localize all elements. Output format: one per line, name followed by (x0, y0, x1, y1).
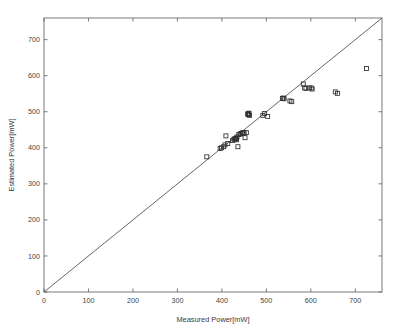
x-tick-label: 100 (82, 296, 94, 305)
y-axis-title: Estimated Power[mW] (7, 118, 16, 191)
identity-line (44, 18, 382, 292)
x-axis-title: Measured Power[mW] (176, 315, 249, 324)
x-tick-label: 0 (42, 296, 46, 305)
y-tick-label: 300 (28, 179, 40, 188)
data-point-marker (205, 155, 209, 159)
x-tick-label: 400 (216, 296, 228, 305)
y-axis-ticks (44, 40, 382, 292)
identity-reference-line (44, 18, 382, 292)
y-axis-tick-labels: 0100200300400500600700 (28, 35, 40, 296)
y-tick-label: 0 (36, 288, 40, 297)
data-point-marker (364, 66, 368, 70)
x-axis-ticks (44, 18, 355, 292)
y-tick-label: 400 (28, 143, 40, 152)
x-tick-label: 700 (349, 296, 361, 305)
data-point-series (205, 66, 369, 158)
x-axis-tick-labels: 0100200300400500600700 (42, 296, 361, 305)
x-tick-label: 200 (127, 296, 139, 305)
y-tick-label: 700 (28, 35, 40, 44)
data-point-marker (243, 136, 247, 140)
y-tick-label: 500 (28, 107, 40, 116)
data-point-marker (224, 134, 228, 138)
data-point-marker (236, 145, 240, 149)
y-tick-label: 100 (28, 252, 40, 261)
x-tick-label: 300 (171, 296, 183, 305)
y-tick-label: 200 (28, 215, 40, 224)
x-tick-label: 500 (260, 296, 272, 305)
x-tick-label: 600 (305, 296, 317, 305)
y-tick-label: 600 (28, 71, 40, 80)
scatter-plot-figure: 0100200300400500600700 01002003004005006… (0, 0, 399, 330)
plot-canvas: 0100200300400500600700 01002003004005006… (0, 0, 399, 330)
